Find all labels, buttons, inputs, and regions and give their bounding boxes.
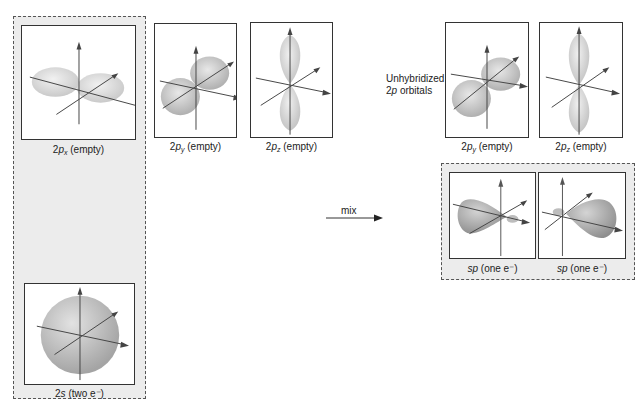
- orbital-2s-panel: [24, 283, 135, 385]
- orbital-2px-caption: 2px (empty): [21, 144, 136, 156]
- orbital-2px-panel: [21, 25, 136, 140]
- unhybridized-2py-panel: [445, 22, 529, 138]
- orbital-2pz-panel: [250, 22, 333, 138]
- caption-suffix: (two e⁻): [66, 388, 104, 399]
- caption-suffix: (one e⁻): [568, 263, 607, 274]
- p-orbital-horizontal-icon: [22, 26, 135, 139]
- unhybridized-2py-caption: 2py (empty): [445, 141, 529, 153]
- caption-suffix: (one e⁻): [478, 263, 517, 274]
- sp-hybrid-left-icon: [450, 173, 535, 258]
- s-orbital-sphere-icon: [25, 284, 134, 384]
- caption-italic: sp: [557, 263, 568, 274]
- sp-orbital-2-panel: [538, 172, 626, 259]
- unhybridized-label: Unhybridized 2p orbitals: [386, 73, 444, 97]
- caption-suffix: (empty): [184, 141, 221, 152]
- orbital-2pz-caption: 2pz (empty): [250, 141, 333, 153]
- unhybridized-2pz-panel: [539, 22, 623, 138]
- p-orbital-diagonal-icon: [446, 23, 528, 137]
- mix-arrow-icon: [325, 213, 385, 223]
- sp-hybrid-right-icon: [539, 173, 625, 258]
- p-orbital-vertical-icon: [251, 23, 332, 137]
- unhybridized-2pz-caption: 2pz (empty): [539, 141, 623, 153]
- orbital-2py-panel: [154, 23, 237, 138]
- caption-suffix: (empty): [476, 141, 513, 152]
- caption-suffix: (empty): [67, 144, 104, 155]
- p-orbital-vertical-icon: [540, 23, 622, 137]
- label-suffix: orbitals: [397, 85, 432, 96]
- caption-suffix: (empty): [280, 141, 317, 152]
- unhybridized-label-line1: Unhybridized: [386, 73, 444, 85]
- sp-orbital-2-caption: sp (one e⁻): [538, 263, 626, 274]
- caption-italic: sp: [467, 263, 478, 274]
- sp-orbital-1-panel: [449, 172, 536, 259]
- unhybridized-label-line2: 2p orbitals: [386, 85, 444, 97]
- orbital-2py-caption: 2py (empty): [154, 141, 237, 153]
- orbital-2s-caption: 2s (two e⁻): [24, 388, 135, 399]
- p-orbital-diagonal-icon: [155, 24, 236, 137]
- sp-orbital-1-caption: sp (one e⁻): [449, 263, 536, 274]
- caption-suffix: (empty): [570, 141, 607, 152]
